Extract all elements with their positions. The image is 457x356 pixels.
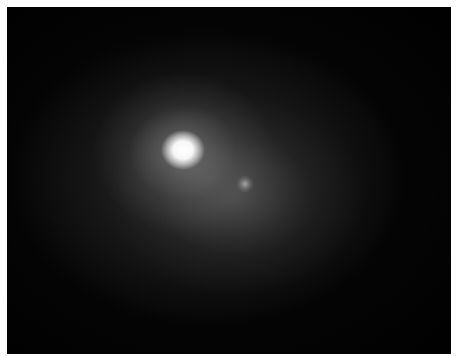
image-frame <box>7 7 451 354</box>
edge-vignette <box>7 7 451 354</box>
